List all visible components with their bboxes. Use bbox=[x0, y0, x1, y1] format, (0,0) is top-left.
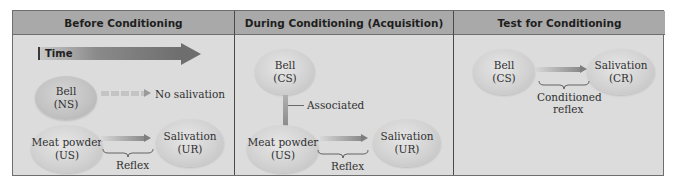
associated-label: Associated bbox=[307, 99, 364, 111]
panel-during-conditioning: During Conditioning (Acquisition) Bell (… bbox=[234, 11, 453, 175]
meat-powder-us-node: Meat powder (US) bbox=[31, 125, 103, 173]
conditioned-reflex-label-line2: reflex bbox=[553, 103, 583, 115]
brace-icon bbox=[102, 149, 154, 157]
panel-title: Before Conditioning bbox=[13, 11, 234, 35]
bell-cs-node: Bell (CS) bbox=[473, 49, 535, 95]
bell-cs-node: Bell (CS) bbox=[255, 49, 315, 95]
reflex-label: Reflex bbox=[331, 160, 364, 172]
arrow-head-icon bbox=[181, 43, 201, 65]
time-arrow: Time bbox=[38, 43, 201, 65]
node-name: Salivation bbox=[594, 59, 647, 72]
panel-test-for-conditioning: Test for Conditioning Bell (CS) Salivati… bbox=[453, 11, 665, 175]
brace-icon bbox=[317, 150, 369, 158]
panel-before-conditioning: Before Conditioning Time Bell (NS) No sa… bbox=[13, 11, 234, 175]
right-arrow-icon bbox=[320, 135, 368, 142]
right-arrow-icon bbox=[535, 66, 587, 73]
node-name: Meat powder bbox=[32, 136, 103, 149]
meat-powder-us-node: Meat powder (US) bbox=[247, 125, 319, 173]
association-line bbox=[288, 105, 304, 106]
conditioned-reflex-label-line1: Conditioned bbox=[537, 91, 602, 103]
node-name: Meat powder bbox=[248, 136, 319, 149]
salivation-ur-node: Salivation (UR) bbox=[156, 119, 224, 167]
node-name: Bell bbox=[56, 85, 77, 98]
node-tag: (UR) bbox=[178, 143, 203, 156]
node-tag: (US) bbox=[271, 149, 295, 162]
node-tag: (NS) bbox=[54, 98, 79, 111]
reflex-label: Reflex bbox=[116, 159, 149, 171]
panel-title: Test for Conditioning bbox=[454, 11, 665, 35]
node-tag: (CS) bbox=[273, 72, 296, 85]
salivation-ur-node: Salivation (UR) bbox=[373, 119, 441, 167]
bell-ns-node: Bell (NS) bbox=[35, 76, 97, 120]
dashed-arrow-icon bbox=[101, 90, 151, 97]
node-tag: (CR) bbox=[609, 72, 633, 85]
no-salivation-label: No salivation bbox=[155, 88, 225, 100]
salivation-cr-node: Salivation (CR) bbox=[587, 49, 655, 95]
association-connector bbox=[283, 95, 288, 127]
node-tag: (US) bbox=[55, 149, 79, 162]
node-name: Salivation bbox=[380, 130, 433, 143]
node-name: Bell bbox=[275, 59, 296, 72]
node-tag: (UR) bbox=[395, 143, 420, 156]
node-name: Salivation bbox=[163, 130, 216, 143]
time-label: Time bbox=[45, 48, 72, 60]
panel-title: During Conditioning (Acquisition) bbox=[235, 11, 453, 35]
right-arrow-icon bbox=[101, 135, 151, 142]
node-name: Bell bbox=[494, 59, 515, 72]
node-tag: (CS) bbox=[492, 72, 515, 85]
brace-icon bbox=[538, 81, 590, 89]
conditioning-diagram: Before Conditioning Time Bell (NS) No sa… bbox=[12, 10, 664, 176]
